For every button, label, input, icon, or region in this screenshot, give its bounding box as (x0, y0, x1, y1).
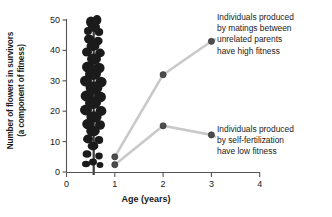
x-tick-label-4: 4 (257, 179, 262, 189)
y-tick-label-0: 0 (38, 167, 60, 177)
y-tick-label-30: 30 (38, 76, 60, 86)
y-axis-ticks (63, 20, 67, 172)
data-point (208, 132, 214, 138)
y-tick-label-50: 50 (38, 15, 60, 25)
x-axis-ticks (67, 173, 260, 178)
x-axis-title: Age (years) (66, 194, 226, 204)
x-tick-label-2: 2 (161, 179, 166, 189)
x-tick-label-3: 3 (209, 179, 214, 189)
annotation-high-fitness: Individuals produced by matings between … (217, 12, 331, 57)
annotation-low-fitness: Individuals produced by self-fertilizati… (217, 124, 331, 158)
series-line-outcrossed (115, 41, 212, 157)
x-tick-label-1: 1 (112, 179, 117, 189)
y-tick-label-10: 10 (38, 137, 60, 147)
series-markers-selfed (112, 123, 215, 168)
data-point (160, 72, 166, 78)
data-point (208, 38, 214, 44)
data-point (112, 154, 118, 160)
y-tick-label-20: 20 (38, 106, 60, 116)
data-point (160, 123, 166, 129)
data-point (112, 162, 118, 168)
y-tick-label-40: 40 (38, 45, 60, 55)
x-tick-label-0: 0 (64, 179, 69, 189)
chart-figure: Number of flowers in survivors (a compon… (0, 0, 332, 217)
series-markers-outcrossed (112, 38, 215, 160)
